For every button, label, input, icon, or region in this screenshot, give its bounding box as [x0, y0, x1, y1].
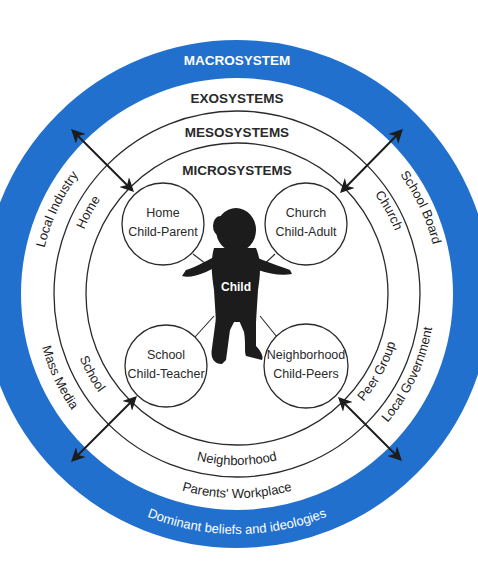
arrow-top-right-icon	[342, 131, 401, 191]
meso-item-home: Home	[73, 193, 103, 231]
micro-node-school: School Child-Teacher	[125, 325, 207, 407]
exo-item-parents-workplace: Parents' Workplace	[181, 479, 293, 501]
micro-node-neighborhood: Neighborhood Child-Peers	[264, 324, 348, 408]
micro-node-relation: Child-Teacher	[127, 367, 204, 381]
ecological-systems-diagram: MACROSYSTEM EXOSYSTEMS MESOSYSTEMS MICRO…	[0, 0, 478, 574]
microsystems-label: MICROSYSTEMS	[182, 163, 292, 178]
micro-node-relation: Child-Peers	[273, 367, 338, 381]
micro-node-church: Church Child-Adult	[265, 183, 347, 265]
micro-node-home: Home Child-Parent	[122, 183, 204, 265]
meso-item-church: Church	[372, 188, 406, 233]
arrow-top-left-icon	[73, 131, 132, 190]
exosystems-label: EXOSYSTEMS	[190, 91, 283, 106]
meso-item-neighborhood: Neighborhood	[196, 448, 278, 468]
micro-node-setting: School	[147, 348, 185, 362]
macrosystem-label: MACROSYSTEM	[184, 53, 291, 68]
child-label: Child	[221, 280, 251, 294]
micro-node-relation: Child-Adult	[275, 225, 337, 239]
micro-node-setting: Home	[146, 206, 179, 220]
meso-item-school: School	[77, 353, 109, 394]
mesosystems-label: MESOSYSTEMS	[185, 125, 289, 140]
micro-node-relation: Child-Parent	[128, 225, 198, 239]
meso-item-peer-group: Peer Group	[354, 339, 398, 403]
micro-node-setting: Neighborhood	[267, 348, 346, 362]
micro-node-setting: Church	[286, 206, 326, 220]
arrow-bottom-left-icon	[73, 398, 135, 460]
